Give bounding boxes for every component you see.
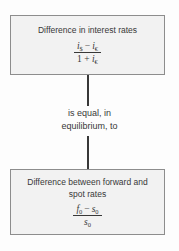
formula-denominator: 1 + i€ [77,54,98,64]
fraction-bar [73,215,101,216]
fraction-bar [74,52,101,53]
interest-rates-title: Difference in interest rates [38,25,137,37]
interest-rates-box: Difference in interest rates i$−i€ 1 + i… [10,15,165,75]
formula-numerator: i$−i€ [77,41,98,51]
forward-spot-formula: f0−s0 s0 [76,204,98,227]
formula-denominator: s0 [76,217,98,227]
forward-spot-title: Difference between forward and spot rate… [27,177,147,200]
equilibrium-label: is equal, in equilibrium, to [0,107,179,132]
forward-spot-box: Difference between forward and spot rate… [10,169,165,235]
diagram-canvas: Difference in interest rates i$−i€ 1 + i… [0,0,179,251]
connector-line-top [87,75,89,106]
interest-rates-formula: i$−i€ 1 + i€ [77,41,98,64]
equilibrium-label-line1: is equal, in [0,107,179,120]
formula-numerator: f0−s0 [76,204,98,214]
forward-spot-title-line1: Difference between forward and [27,177,147,189]
forward-spot-title-line2: spot rates [27,189,147,201]
connector-line-bottom [87,136,89,169]
equilibrium-label-line2: equilibrium, to [0,120,179,133]
